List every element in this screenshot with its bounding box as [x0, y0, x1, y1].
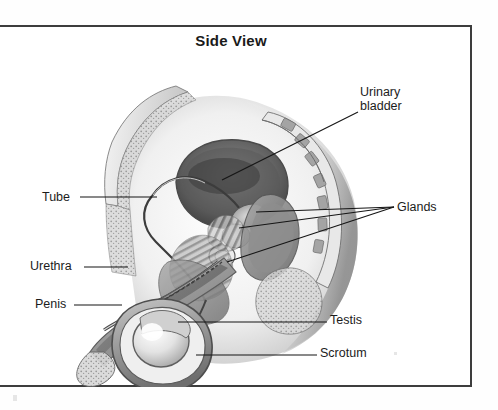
label-urethra: Urethra — [30, 260, 72, 274]
figure-root: Side View — [0, 0, 498, 410]
paper-speck — [394, 352, 397, 355]
label-penis: Penis — [35, 298, 66, 312]
label-urinary-bladder-line1: Urinary — [360, 85, 400, 99]
label-testis: Testis — [330, 314, 362, 328]
paper-speck — [13, 395, 17, 401]
label-tube: Tube — [42, 191, 70, 205]
label-glands: Glands — [397, 201, 437, 215]
label-urinary-bladder: Urinarybladder — [360, 86, 402, 113]
page-title: Side View — [0, 32, 462, 49]
label-urinary-bladder-line2: bladder — [360, 99, 402, 113]
label-scrotum: Scrotum — [320, 347, 367, 361]
